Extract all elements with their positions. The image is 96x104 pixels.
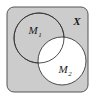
set-label-m2-base: M (57, 63, 68, 75)
universe-label: X (72, 15, 81, 27)
venn-diagram-figure: X M 1 M 2 (0, 0, 96, 104)
venn-diagram-canvas: X M 1 M 2 (0, 0, 96, 104)
set-label-m1-subscript: 1 (38, 31, 42, 39)
set-label-m1-base: M (27, 24, 38, 36)
set-circle-m2 (38, 37, 86, 85)
set-label-m2-subscript: 2 (68, 70, 72, 78)
